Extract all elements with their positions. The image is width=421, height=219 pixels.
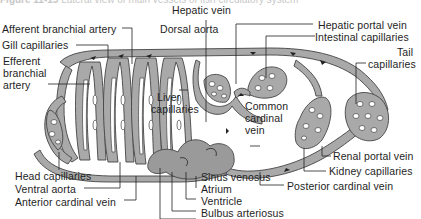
label-ventral-aorta: Ventral aorta (15, 183, 76, 195)
label-head-capillaries: Head capillaries (15, 170, 91, 182)
label-ventricle: Ventricle (201, 195, 242, 207)
label-afferent-branchial-artery: Afferent branchial artery (2, 23, 116, 35)
label-hepatic-vein: Hepatic vein (172, 4, 231, 16)
label-common-cardinal-vein-2: cardinal (245, 112, 283, 124)
label-tail-capillaries-1: Tail (397, 46, 413, 58)
label-common-cardinal-vein-3: vein (245, 124, 265, 136)
intestinal-capillaries-vessel (234, 67, 287, 98)
label-kidney-capillaries: Kidney capillaries (329, 165, 413, 177)
label-dorsal-aorta: Dorsal aorta (160, 23, 218, 35)
label-renal-portal-vein: Renal portal vein (333, 150, 414, 162)
label-common-cardinal-vein-1: Common (245, 100, 288, 112)
label-anterior-cardinal-vein: Anterior cardinal vein (15, 196, 116, 208)
label-efferent-branchial-artery-3: artery (3, 79, 30, 91)
label-bulbus-arteriosus: Bulbus arteriosus (201, 207, 284, 219)
label-atrium: Atrium (201, 183, 232, 195)
label-gill-capillaries: Gill capillaries (2, 39, 68, 51)
kidney-capillaries-vessel (294, 60, 331, 149)
label-hepatic-portal-vein: Hepatic portal vein (318, 19, 407, 31)
label-efferent-branchial-artery-1: Efferent (3, 55, 40, 67)
label-efferent-branchial-artery-2: branchial (3, 67, 47, 79)
label-posterior-cardinal-vein: Posterior cardinal vein (287, 180, 393, 192)
label-liver-capillaries-2: capillaries (151, 103, 199, 115)
label-tail-capillaries-2: capillaries (368, 58, 416, 70)
label-liver-capillaries-1: Liver (157, 91, 180, 103)
label-sinus-venosus: Sinus venosus (201, 171, 271, 183)
label-intestinal-capillaries: Intestinal capillaries (315, 31, 409, 43)
